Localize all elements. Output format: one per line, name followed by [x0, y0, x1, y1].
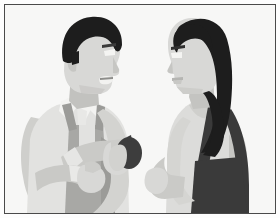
image-caption: A man in overalls holding a dark round o…	[0, 0, 1, 1]
illustration-page: A man in overalls holding a dark round o…	[0, 0, 280, 218]
figure-man-label: Man	[0, 0, 1, 1]
figure-woman-holding: shoulder bag at hip	[0, 0, 1, 1]
image-title: Two people talking	[0, 0, 1, 1]
figure-man-clothing: light collared shirt with gray overalls …	[0, 0, 1, 1]
figure-man-holding: dark round object in raised right hand	[0, 0, 1, 1]
illustration-canvas	[5, 5, 275, 213]
woman-eye	[171, 52, 182, 58]
woman-bag	[191, 157, 247, 213]
figure-woman-clothing: light sleeveless top with dark shoulder …	[0, 0, 1, 1]
illustration-frame	[4, 4, 276, 214]
figure-woman-label: Woman	[0, 0, 1, 1]
man-hair-sideburn	[71, 51, 79, 65]
